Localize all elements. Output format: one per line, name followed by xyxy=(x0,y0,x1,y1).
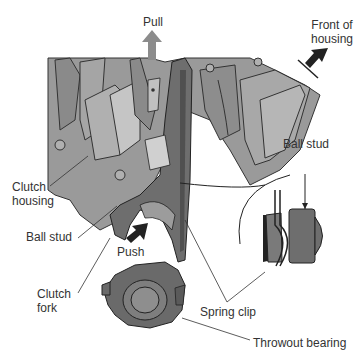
front-of-housing-line1: Front of xyxy=(300,18,364,32)
clutch-fork-line1: Clutch xyxy=(37,287,71,301)
ball-stud-detail-label: Ball stud xyxy=(283,137,329,151)
ball-stud-label: Ball stud xyxy=(26,230,72,244)
front-of-housing-arrow-icon xyxy=(298,48,328,78)
clutch-housing-line2: housing xyxy=(12,194,54,208)
spring-clip-label: Spring clip xyxy=(200,305,256,319)
clutch-housing-label: Clutch housing xyxy=(12,180,54,208)
push-label: Push xyxy=(117,245,144,259)
throwout-bearing xyxy=(102,262,185,328)
clutch-fork-label: Clutch fork xyxy=(37,287,71,315)
front-of-housing-line2: housing xyxy=(300,32,364,46)
clutch-fork-line2: fork xyxy=(37,301,71,315)
clutch-housing-line1: Clutch xyxy=(12,180,54,194)
front-of-housing-label: Front of housing xyxy=(300,18,364,46)
throwout-bearing-label: Throwout bearing xyxy=(253,336,346,350)
pull-arrow-icon xyxy=(142,30,162,60)
pull-label: Pull xyxy=(138,15,168,29)
